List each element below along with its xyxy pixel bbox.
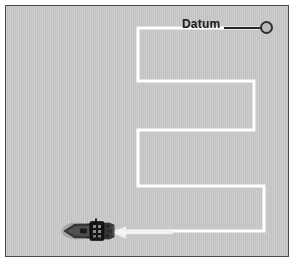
ship-icon (62, 216, 118, 246)
datum-label: Datum (182, 18, 220, 30)
search-track-layer (6, 6, 289, 257)
diagram-frame: Datum (5, 5, 289, 257)
datum-leader-line (224, 27, 262, 29)
direction-of-travel-arrow-icon (111, 226, 173, 239)
search-pattern-figure: Datum (0, 0, 294, 262)
direction-arrow-wrap (111, 225, 173, 238)
datum-marker-icon (260, 21, 273, 34)
search-track-path (116, 28, 266, 231)
ship-wrap (62, 216, 118, 246)
